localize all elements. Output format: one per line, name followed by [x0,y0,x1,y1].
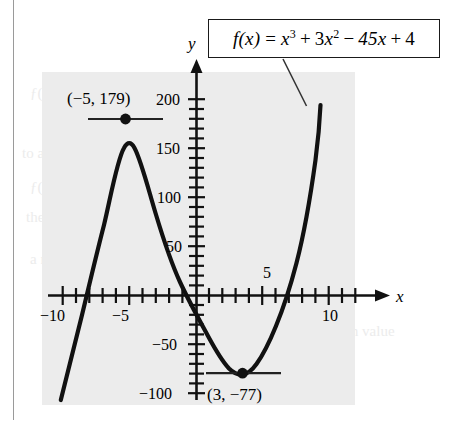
local-minimum-label: (3, −77) [207,386,262,403]
x-tick-label-neg5: −5 [112,308,129,324]
formula-equals: = [265,28,276,49]
local-maximum-marker [88,114,163,125]
formula-callout-box: f(x)=x3+3x2−45x+4 [208,19,440,58]
y-tick-label-neg50: −50 [152,337,177,353]
y-tick-label-pos200: 200 [156,92,180,108]
x-axis-arrowhead [375,290,390,302]
formula-lhs: f(x) [233,28,260,49]
y-axis-arrowhead [191,59,203,73]
graph-canvas [0,0,468,428]
formula-op2: − [343,28,354,49]
x-axis-label: x [396,288,404,305]
figure-page: ƒ(x) = x³ − (x)ƒ to a polynomial functio… [0,0,468,428]
y-tick-label-pos100: 100 [157,190,181,206]
local-maximum-label: (−5, 179) [67,90,130,107]
y-tick-label-neg100: −100 [139,386,172,402]
formula-term3: 45x [358,28,386,49]
y-tick-label-pos50: 50 [166,239,182,255]
x-tick-label-pos10: 10 [322,308,338,324]
y-axis-label: y [188,35,196,52]
formula-op1: + [300,28,311,49]
min-point-dot [237,368,248,379]
x-tick-label-pos5: 5 [263,265,271,281]
formula-leader-line [283,59,307,106]
y-axis [191,59,203,400]
local-minimum-marker [206,368,281,379]
formula-text: f(x)=x3+3x2−45x+4 [233,27,415,50]
formula-term4: 4 [405,28,415,49]
y-tick-label-pos150: 150 [156,141,180,157]
x-tick-label-neg10: −10 [40,308,65,324]
formula-op3: + [390,28,401,49]
formula-term2-coefficient: 3 [315,28,325,49]
formula-term2-exponent: 2 [333,27,339,41]
x-axis [48,290,390,302]
formula-term1-base: x [281,28,290,49]
formula-term2-base: x [325,28,334,49]
formula-term1-exponent: 3 [290,27,296,41]
max-point-dot [120,114,131,125]
